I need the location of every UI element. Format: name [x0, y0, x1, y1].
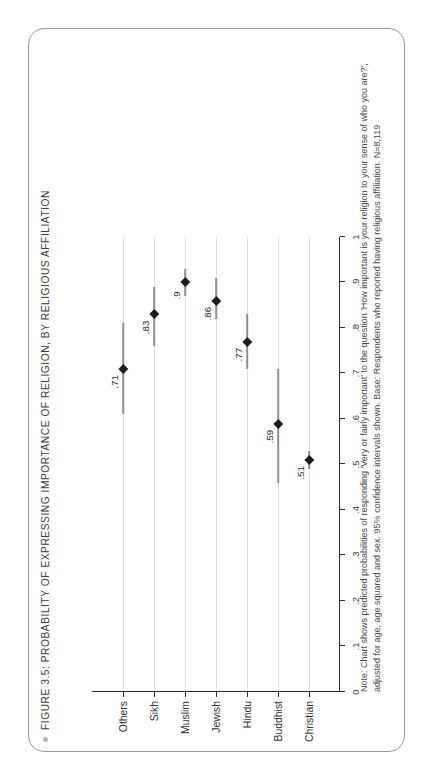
value-axis-line [339, 237, 340, 692]
data-point-label: .71 [109, 375, 120, 389]
chart-plot-area: .51.59.77.86.9.83.71 0.1.2.3.4.5.6.7.8.9… [92, 237, 340, 692]
category-label: Muslim [180, 701, 191, 734]
value-axis-tick [340, 463, 345, 464]
category-axis-tick [247, 692, 248, 697]
gridline [185, 237, 186, 692]
data-point [273, 419, 282, 428]
gridline [123, 237, 124, 692]
value-axis-tick [340, 509, 345, 510]
category-label: Buddhist [273, 701, 284, 741]
data-point-label: .51 [295, 466, 306, 480]
category-axis-tick [309, 692, 310, 697]
figure-page: FIGURE 3.5: PROBABILITY OF EXPRESSING IM… [0, 0, 430, 780]
category-label: Hindu [242, 701, 253, 728]
gridline [247, 237, 248, 692]
value-axis-tick [340, 645, 345, 646]
data-point-label: .86 [202, 307, 213, 321]
value-axis-tick [340, 236, 345, 237]
category-axis-tick [154, 692, 155, 697]
figure-note: Note: Chart shows predicted probabilitie… [358, 52, 384, 692]
category-axis-tick [123, 692, 124, 697]
data-point [118, 364, 127, 373]
data-point [149, 310, 158, 319]
category-axis-line [92, 691, 340, 692]
data-point-label: .83 [140, 321, 151, 335]
category-axis-tick [278, 692, 279, 697]
value-axis-tick [340, 691, 345, 692]
figure-title-row: FIGURE 3.5: PROBABILITY OF EXPRESSING IM… [34, 42, 56, 742]
value-axis-tick [340, 600, 345, 601]
category-label: Sikh [149, 701, 160, 721]
data-point [211, 296, 220, 305]
category-label: Others [118, 701, 129, 732]
value-axis-tick [340, 281, 345, 282]
data-point [180, 278, 189, 287]
data-point [242, 337, 251, 346]
figure-stage: FIGURE 3.5: PROBABILITY OF EXPRESSING IM… [28, 28, 405, 752]
category-axis-tick [185, 692, 186, 697]
bullet-dot-icon [43, 737, 48, 742]
value-axis-tick [340, 554, 345, 555]
data-point-label: .9 [171, 291, 182, 299]
page-title: FIGURE 3.5: PROBABILITY OF EXPRESSING IM… [40, 190, 51, 730]
value-axis-tick [340, 372, 345, 373]
data-point-label: .77 [233, 348, 244, 362]
value-axis-tick [340, 418, 345, 419]
data-point [304, 455, 313, 464]
value-axis-tick [340, 327, 345, 328]
data-point-label: .59 [264, 430, 275, 444]
category-label: Christian [304, 701, 315, 742]
category-label: Jewish [211, 701, 222, 733]
category-axis-tick [216, 692, 217, 697]
